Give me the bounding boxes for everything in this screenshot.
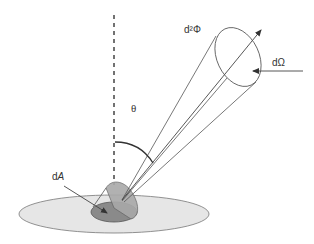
theta-label: θ	[131, 102, 136, 114]
flux-direction-arrow	[122, 30, 261, 200]
solid-angle-label: dΩ	[272, 57, 286, 68]
flux-label: d²Φ	[184, 24, 201, 35]
area-element-label: dA	[52, 171, 65, 182]
radiance-diagram: d²Φ dΩ θ dA	[0, 0, 314, 244]
cone-edge-left	[122, 36, 216, 200]
cone-edge-right	[124, 82, 256, 202]
cone-edge-mid	[122, 78, 227, 201]
theta-angle-arc	[115, 142, 153, 163]
area-var: A	[57, 171, 65, 182]
